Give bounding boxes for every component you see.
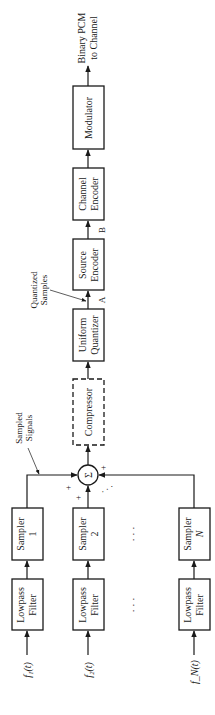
channel-encoder-label-2: Encoder bbox=[89, 177, 100, 211]
compressor-label: Compressor bbox=[83, 387, 94, 436]
sampler-n-to-summer-wire bbox=[99, 475, 194, 508]
input-2-label: f₂(t) bbox=[83, 661, 95, 677]
input-1-label: f₁(t) bbox=[22, 661, 34, 677]
output-label-line2: to Channel bbox=[88, 16, 99, 60]
output-label-line1: Binary PCM bbox=[76, 12, 87, 63]
plus-sign-1: + bbox=[66, 482, 71, 492]
filter-1-label-1: Lowpass bbox=[15, 587, 26, 623]
channel-encoder-label-1: Channel bbox=[77, 177, 88, 211]
source-encoder-label-1: Source bbox=[77, 251, 88, 279]
sampler-2-label: Sampler bbox=[77, 517, 88, 551]
sampled-signals-label-2: Signals bbox=[24, 414, 34, 441]
filter-ellipsis: · · · bbox=[128, 598, 139, 613]
sampler-ellipsis: · · · bbox=[128, 527, 139, 542]
point-a-label: A bbox=[97, 296, 107, 303]
plus-sign-n: + bbox=[101, 462, 106, 472]
compressor-block: Compressor bbox=[73, 379, 104, 445]
sampler-n-label: Sampler bbox=[182, 517, 193, 551]
sigma-symbol: Σ bbox=[83, 472, 94, 478]
summer-node: Σ bbox=[78, 465, 98, 485]
quantized-samples-label-2: Samples bbox=[39, 274, 49, 305]
filter-2-label-2: Filter bbox=[89, 594, 100, 616]
channel-2: Sampler 2 Lowpass Filter f₂(t) bbox=[73, 508, 104, 678]
filter-2-label-1: Lowpass bbox=[77, 587, 88, 623]
summer-ellipsis: · · · bbox=[99, 481, 116, 496]
pcm-tdm-block-diagram: Binary PCM to Channel Modulator Channel … bbox=[0, 0, 215, 715]
sampled-signals-annotation: Sampled Signals bbox=[14, 412, 39, 474]
channel-encoder-block: Channel Encoder bbox=[73, 168, 104, 220]
sampler-1-index: 1 bbox=[27, 532, 38, 537]
filter-1-label-2: Filter bbox=[27, 594, 38, 616]
quantized-samples-label-1: Quantized bbox=[29, 271, 39, 308]
source-encoder-label-2: Encoder bbox=[89, 248, 100, 282]
output-label: Binary PCM to Channel bbox=[76, 12, 99, 63]
sampler-2-index: 2 bbox=[89, 532, 100, 537]
sampled-signals-pointer bbox=[28, 448, 39, 474]
sampler-1-label: Sampler bbox=[15, 517, 26, 551]
point-b-label: B bbox=[97, 227, 107, 233]
plus-sign-2: + bbox=[76, 492, 81, 502]
source-encoder-block: Source Encoder bbox=[73, 239, 104, 290]
sampler-n-index: N bbox=[194, 529, 205, 538]
input-n-label: f_N(t) bbox=[189, 659, 201, 684]
filter-n-label-1: Lowpass bbox=[182, 587, 193, 623]
uniform-quantizer-block: Uniform Quantizer bbox=[73, 309, 104, 361]
uniform-quantizer-label-1: Uniform bbox=[77, 318, 88, 353]
uniform-quantizer-label-2: Quantizer bbox=[89, 315, 100, 355]
quantized-samples-pointer bbox=[50, 290, 86, 301]
modulator-label: Modulator bbox=[83, 96, 94, 139]
sampled-signals-label-1: Sampled bbox=[14, 412, 24, 444]
channel-n: Sampler N Lowpass Filter f_N(t) bbox=[179, 508, 210, 684]
filter-n-label-2: Filter bbox=[194, 594, 205, 616]
modulator-block: Modulator bbox=[73, 86, 104, 149]
channel-1: Sampler 1 Lowpass Filter f₁(t) bbox=[12, 508, 43, 678]
